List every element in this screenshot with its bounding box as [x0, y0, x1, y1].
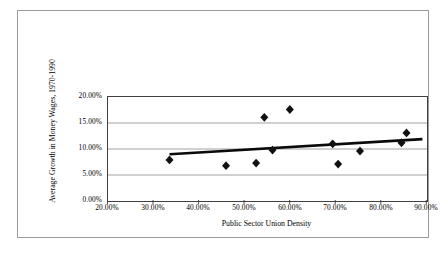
data-point-marker — [334, 160, 342, 169]
trendline-segment — [170, 139, 423, 154]
data-point-marker — [286, 105, 294, 114]
data-point-marker — [402, 128, 410, 137]
data-point-marker — [356, 147, 364, 156]
x-tick-label: 90.00% — [399, 203, 446, 212]
data-point-marker — [222, 161, 230, 170]
plot-area — [107, 96, 428, 202]
x-axis-title: Public Sector Union Density — [107, 219, 426, 229]
data-point-marker — [329, 139, 337, 148]
y-tick-label: 5.00% — [56, 170, 102, 178]
y-tick-label: 15.00% — [56, 118, 102, 126]
y-axis-title: Average Growth in Money Wages, 1970-1990 — [48, 59, 58, 203]
data-point-marker — [166, 156, 174, 165]
data-points — [166, 105, 411, 170]
scatter-plot-svg — [108, 97, 427, 201]
y-tick-label: 20.00% — [56, 92, 102, 100]
x-axis-tick-labels: 20.00% 30.00% 40.00% 50.00% 60.00% 70.00… — [107, 203, 426, 217]
data-point-marker — [252, 159, 260, 168]
chart-frame: 20.00% 15.00% 10.00% 5.00% 0.00% — [17, 10, 429, 238]
y-axis-title-container: Average Growth in Money Wages, 1970-1990 — [46, 56, 60, 206]
data-point-marker — [260, 113, 268, 122]
y-tick-label: 10.00% — [56, 144, 102, 152]
chart-figure: 20.00% 15.00% 10.00% 5.00% 0.00% — [0, 0, 446, 253]
y-axis-tick-labels: 20.00% 15.00% 10.00% 5.00% 0.00% — [54, 96, 102, 200]
trendline — [170, 139, 423, 154]
